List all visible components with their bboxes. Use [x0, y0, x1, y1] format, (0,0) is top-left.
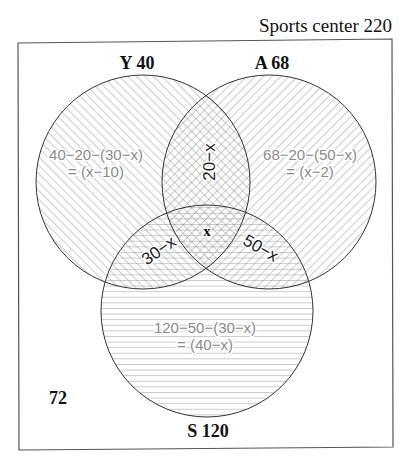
set-s-label: S 120 [187, 421, 229, 441]
region-y-and-a: 20−x [200, 143, 219, 181]
region-a-only-line2: = (x−2) [286, 163, 334, 180]
set-a-label: A 68 [255, 53, 290, 73]
set-y-label: Y 40 [120, 53, 155, 73]
region-y-only-line2: = (x−10) [68, 163, 124, 180]
region-y-only-line1: 40−20−(30−x) [49, 146, 143, 163]
venn-diagram: Sports center 220 Y 40 A 68 S 120 72 40−… [0, 0, 420, 472]
region-s-only-line2: = (40−x) [177, 336, 233, 353]
outside-label: 72 [49, 388, 67, 408]
diagram-title: Sports center 220 [259, 15, 392, 36]
region-all-three: x [203, 223, 211, 239]
region-s-only-line1: 120−50−(30−x) [154, 319, 256, 336]
region-a-only-line1: 68−20−(50−x) [263, 146, 357, 163]
